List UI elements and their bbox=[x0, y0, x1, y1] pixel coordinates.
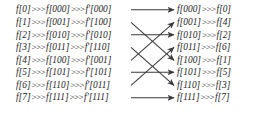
right-row: f[001]>>>f[4] bbox=[177, 17, 231, 29]
operator-symbol: >>> bbox=[31, 80, 46, 90]
operator-symbol: >>> bbox=[31, 55, 46, 65]
right-row: f[101]>>>f[5] bbox=[177, 67, 231, 79]
right-row: f[111]>>>f[7] bbox=[177, 92, 230, 104]
operator-symbol: >>> bbox=[31, 67, 46, 77]
left-index-label: f[4] bbox=[16, 55, 31, 65]
left-mapped-label: f'[000] bbox=[85, 4, 111, 14]
operator-symbol: >>> bbox=[70, 67, 85, 77]
left-index-label: f[7] bbox=[16, 92, 31, 102]
operator-symbol: >>> bbox=[70, 4, 85, 14]
right-index-label: f[1] bbox=[216, 55, 231, 65]
right-index-label: f[6] bbox=[216, 42, 231, 52]
left-binary-label: f[110] bbox=[46, 80, 69, 90]
left-binary-label: f[100] bbox=[46, 55, 70, 65]
left-mapped-label: f'[110] bbox=[85, 42, 110, 52]
operator-symbol: >>> bbox=[200, 92, 215, 102]
operator-symbol: >>> bbox=[69, 92, 84, 102]
left-row: f[4]>>>f[100]>>>f'[001] bbox=[16, 55, 111, 67]
bit-reversal-permutation-figure: f[0]>>>f[000]>>>f'[000] f[1]>>>f[001]>>>… bbox=[0, 0, 258, 115]
right-row: f[000]>>>f[0] bbox=[177, 4, 231, 16]
operator-symbol: >>> bbox=[70, 30, 85, 40]
operator-symbol: >>> bbox=[201, 55, 216, 65]
right-index-label: f[7] bbox=[215, 92, 230, 102]
left-index-label: f[0] bbox=[16, 4, 31, 14]
right-binary-label: f[111] bbox=[177, 92, 200, 102]
right-index-label: f[0] bbox=[216, 4, 231, 14]
connector-diagonal-row2-to-row5 bbox=[131, 22, 174, 60]
operator-symbol: >>> bbox=[200, 42, 215, 52]
left-row: f[1]>>>f[001]>>>f'[100] bbox=[16, 17, 111, 29]
left-row: f[5]>>>f[101]>>>f'[101] bbox=[16, 67, 111, 79]
left-mapped-label: f'[100] bbox=[85, 17, 111, 27]
left-mapped-label: f'[010] bbox=[85, 30, 111, 40]
left-binary-label: f[000] bbox=[46, 4, 70, 14]
left-index-label: f[2] bbox=[16, 30, 31, 40]
left-index-label: f[6] bbox=[16, 80, 31, 90]
left-index-label: f[3] bbox=[16, 42, 31, 52]
left-row: f[0]>>>f[000]>>>f'[000] bbox=[16, 4, 111, 16]
operator-symbol: >>> bbox=[201, 30, 216, 40]
left-binary-label: f[001] bbox=[46, 17, 70, 27]
left-index-label: f[5] bbox=[16, 67, 31, 77]
operator-symbol: >>> bbox=[200, 80, 215, 90]
operator-symbol: >>> bbox=[201, 4, 216, 14]
right-binary-label: f[100] bbox=[177, 55, 201, 65]
connector-diagonal-row5-to-row2 bbox=[131, 22, 174, 60]
right-index-label: f[4] bbox=[216, 17, 231, 27]
operator-symbol: >>> bbox=[31, 17, 46, 27]
right-binary-label: f[110] bbox=[177, 80, 200, 90]
left-mapped-label: f'[101] bbox=[85, 67, 111, 77]
left-binary-label: f[010] bbox=[46, 30, 70, 40]
left-row: f[2]>>>f[010]>>>f'[010] bbox=[16, 30, 111, 42]
left-mapped-label: f'[011] bbox=[85, 80, 110, 90]
left-binary-label: f[111] bbox=[46, 92, 69, 102]
operator-symbol: >>> bbox=[70, 55, 85, 65]
operator-symbol: >>> bbox=[201, 67, 216, 77]
right-binary-label: f[101] bbox=[177, 67, 201, 77]
connector-diagonal-row4-to-row7 bbox=[131, 47, 174, 85]
right-binary-label: f[000] bbox=[177, 4, 201, 14]
right-index-label: f[5] bbox=[216, 67, 231, 77]
operator-symbol: >>> bbox=[31, 4, 46, 14]
left-mapped-label: f'[111] bbox=[84, 92, 109, 102]
operator-symbol: >>> bbox=[31, 92, 46, 102]
right-index-label: f[3] bbox=[216, 80, 231, 90]
connector-diagonal-row7-to-row4 bbox=[131, 47, 174, 85]
right-binary-label: f[011] bbox=[177, 42, 200, 52]
right-binary-label: f[010] bbox=[177, 30, 201, 40]
operator-symbol: >>> bbox=[70, 17, 85, 27]
left-mapped-label: f'[001] bbox=[85, 55, 111, 65]
left-column: f[0]>>>f[000]>>>f'[000] f[1]>>>f[001]>>>… bbox=[16, 0, 132, 115]
left-row: f[3]>>>f[011]>>>f'[110] bbox=[16, 42, 110, 54]
right-row: f[010]>>>f[2] bbox=[177, 30, 231, 42]
right-index-label: f[2] bbox=[216, 30, 231, 40]
left-binary-label: f[011] bbox=[46, 42, 69, 52]
left-binary-label: f[101] bbox=[46, 67, 70, 77]
left-row: f[7]>>>f[111]>>>f'[111] bbox=[16, 92, 109, 104]
operator-symbol: >>> bbox=[31, 30, 46, 40]
right-row: f[011]>>>f[6] bbox=[177, 42, 230, 54]
operator-symbol: >>> bbox=[69, 42, 84, 52]
left-index-label: f[1] bbox=[16, 17, 31, 27]
operator-symbol: >>> bbox=[201, 17, 216, 27]
right-column: f[000]>>>f[0] f[001]>>>f[4] f[010]>>>f[2… bbox=[177, 0, 257, 115]
right-row: f[100]>>>f[1] bbox=[177, 55, 231, 67]
operator-symbol: >>> bbox=[69, 80, 84, 90]
right-binary-label: f[001] bbox=[177, 17, 201, 27]
right-row: f[110]>>>f[3] bbox=[177, 80, 230, 92]
left-row: f[6]>>>f[110]>>>f'[011] bbox=[16, 80, 110, 92]
operator-symbol: >>> bbox=[31, 42, 46, 52]
